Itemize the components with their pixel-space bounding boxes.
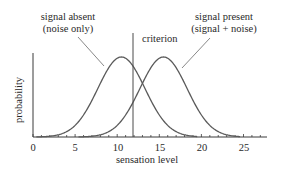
y-axis-title: probability bbox=[13, 76, 24, 123]
signal-detection-chart: criterion signal absent (noise only) sig… bbox=[0, 0, 282, 173]
signal-callout-leader bbox=[182, 38, 210, 68]
signal-callout-line1: signal present bbox=[195, 11, 253, 22]
tick-label-0: 0 bbox=[30, 142, 35, 153]
criterion-label: criterion bbox=[142, 33, 178, 44]
noise-callout-leader bbox=[78, 37, 104, 66]
signal-distribution-curve bbox=[78, 57, 240, 137]
tick-label-15: 15 bbox=[155, 142, 166, 153]
tick-label-25: 25 bbox=[239, 142, 250, 153]
tick-label-20: 20 bbox=[197, 142, 208, 153]
tick-label-10: 10 bbox=[113, 142, 124, 153]
x-axis-title: sensation level bbox=[116, 154, 178, 165]
noise-callout-line2: (noise only) bbox=[43, 23, 94, 35]
signal-callout-line2: (signal + noise) bbox=[191, 23, 257, 35]
tick-label-5: 5 bbox=[72, 142, 77, 153]
noise-callout-line1: signal absent bbox=[41, 11, 96, 22]
